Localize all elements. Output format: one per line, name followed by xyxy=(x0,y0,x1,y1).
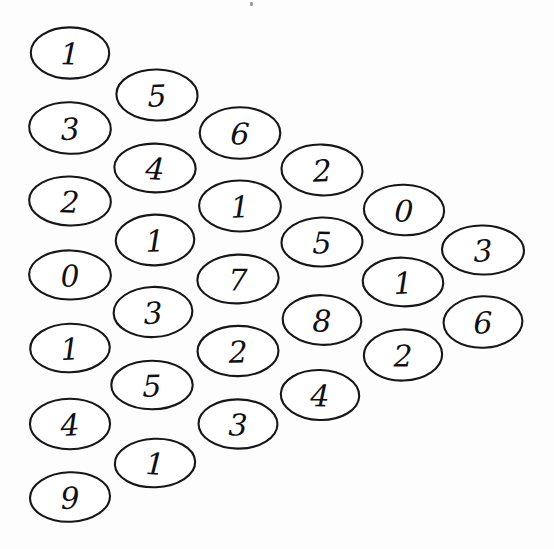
lattice-cell: 2 xyxy=(280,143,363,197)
cell-digit: 2 xyxy=(227,334,248,369)
lattice-cell: 6 xyxy=(200,107,281,159)
cell-digit: 2 xyxy=(392,338,412,373)
figure-canvas: 156203341516217820324153419 xyxy=(0,0,554,549)
lattice-cell: 1 xyxy=(115,214,195,267)
cell-digit: 2 xyxy=(311,153,332,189)
lattice-cell: 5 xyxy=(111,361,193,410)
ellipse-lattice-diagram: 156203341516217820324153419 xyxy=(0,0,554,549)
stray-speck-artifact xyxy=(250,2,253,6)
cell-digit: 1 xyxy=(60,36,80,71)
cell-digit: 1 xyxy=(60,331,81,367)
cells-group: 156203341516217820324153419 xyxy=(28,27,524,523)
cell-digit: 0 xyxy=(60,258,81,294)
lattice-cell: 1 xyxy=(362,256,444,308)
cell-digit: 5 xyxy=(312,225,332,260)
lattice-cell: 3 xyxy=(441,224,524,275)
lattice-cell: 2 xyxy=(28,175,111,226)
cell-digit: 2 xyxy=(59,184,80,220)
lattice-cell: 6 xyxy=(443,295,523,349)
lattice-cell: 8 xyxy=(282,294,363,347)
lattice-cell: 1 xyxy=(30,323,111,373)
cell-digit: 3 xyxy=(473,233,493,269)
cell-digit: 6 xyxy=(230,116,251,152)
cell-digit: 1 xyxy=(145,446,166,482)
lattice-cell: 4 xyxy=(30,399,110,449)
lattice-cell: 9 xyxy=(29,471,111,524)
lattice-cell: 3 xyxy=(28,101,112,156)
cell-digit: 4 xyxy=(144,151,166,187)
cell-digit: 5 xyxy=(142,368,162,403)
cell-digit: 9 xyxy=(60,480,81,516)
cell-digit: 3 xyxy=(143,295,164,331)
lattice-cell: 0 xyxy=(29,250,112,301)
lattice-cell: 5 xyxy=(281,216,363,267)
cell-digit: 4 xyxy=(59,407,81,443)
lattice-cell: 3 xyxy=(198,399,277,449)
cell-digit: 1 xyxy=(145,223,165,259)
lattice-cell: 4 xyxy=(114,143,196,194)
lattice-cell: 1 xyxy=(199,180,281,232)
cell-digit: 6 xyxy=(473,305,492,340)
cell-digit: 4 xyxy=(309,378,330,413)
lattice-cell: 2 xyxy=(197,325,278,376)
lattice-cell: 1 xyxy=(114,437,196,489)
cell-digit: 8 xyxy=(312,303,331,338)
lattice-cell: 7 xyxy=(196,253,279,305)
lattice-cell: 2 xyxy=(363,328,443,381)
lattice-cell: 1 xyxy=(31,27,110,79)
lattice-cell: 3 xyxy=(113,286,193,339)
cell-digit: 5 xyxy=(147,78,167,114)
cell-digit: 0 xyxy=(394,193,414,229)
cell-digit: 3 xyxy=(60,111,81,147)
cell-digit: 7 xyxy=(228,262,248,297)
cell-digit: 1 xyxy=(230,189,250,225)
lattice-cell: 4 xyxy=(280,369,360,421)
cell-digit: 3 xyxy=(228,407,248,442)
lattice-cell: 5 xyxy=(116,69,198,122)
cell-digit: 1 xyxy=(393,265,414,301)
lattice-cell: 0 xyxy=(363,183,445,236)
